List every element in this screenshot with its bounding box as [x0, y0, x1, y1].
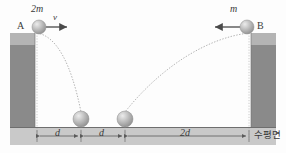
ball-a-trajectory-path	[37, 33, 81, 112]
dimension-label-2: d	[99, 128, 104, 138]
ball-a	[32, 20, 46, 34]
vertical-guide-lines	[37, 30, 249, 140]
dimension-label-3: 2d	[180, 128, 190, 138]
ball-b-name-label: B	[257, 21, 264, 31]
ball-b	[240, 20, 254, 34]
ball-b-trajectory-path	[125, 33, 249, 112]
ball-a-mass-label: 2m	[31, 4, 43, 14]
landing-ball-a	[73, 111, 89, 127]
right-platform	[251, 33, 276, 127]
left-platform	[10, 33, 35, 127]
landing-ball-b	[117, 111, 133, 127]
ball-b-mass-label: m	[230, 4, 237, 14]
diagram-canvas	[0, 0, 286, 153]
horizontal-surface-label: 수평면	[254, 130, 281, 140]
physics-projectile-diagram: 2m A v m B d d 2d 수평면	[0, 0, 286, 153]
ball-a-velocity-label: v	[53, 13, 57, 22]
dimension-label-1: d	[55, 128, 60, 138]
ball-a-name-label: A	[17, 21, 24, 31]
